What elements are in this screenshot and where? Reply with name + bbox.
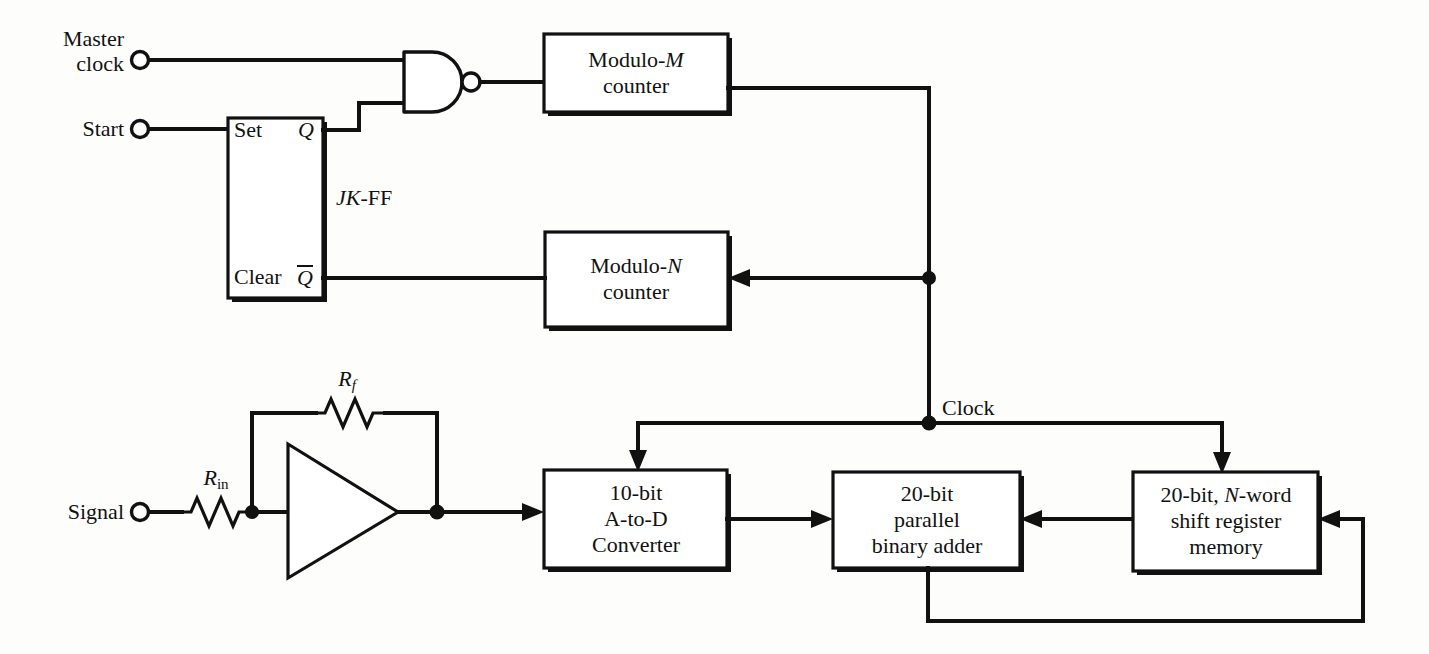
label-modulo-m-line2: counter xyxy=(603,73,669,98)
label-jkff-set-pin: Set xyxy=(234,118,262,143)
block-diagram-figure: Masterclock Start Signal Set Clear Q Q J… xyxy=(0,0,1429,654)
arrow-into-adder-from-adc xyxy=(811,510,833,528)
label-modulo-m-counter: Modulo-Mcounter xyxy=(588,47,683,99)
label-adc-line2: A-to-D xyxy=(604,506,668,531)
nand-bubble-icon xyxy=(462,73,480,91)
wire-modulo-m-to-clock-trunk xyxy=(728,88,929,423)
label-jkff-name: JK-FF xyxy=(336,186,392,211)
label-jkff-name-plain: -FF xyxy=(360,185,392,210)
label-modulo-n-prefix: Modulo- xyxy=(590,253,667,278)
label-jkff-name-italic: JK xyxy=(336,185,360,210)
label-jkff-qbar-pin: Q xyxy=(297,265,313,291)
label-modulo-n-line2: counter xyxy=(603,279,669,304)
label-modulo-n-italic: N xyxy=(667,253,682,278)
label-shift-register-italic: N xyxy=(1224,482,1239,507)
resistor-rin-symbol xyxy=(182,498,252,526)
label-rf-subscript: f xyxy=(352,377,356,393)
signal-terminal[interactable] xyxy=(132,504,149,521)
label-shift-register: 20-bit, N-wordshift registermemory xyxy=(1161,482,1292,560)
wire-q-to-nand xyxy=(323,103,404,130)
start-terminal[interactable] xyxy=(132,121,149,138)
label-signal: Signal xyxy=(68,500,124,525)
label-shift-register-line2: shift register xyxy=(1171,508,1282,533)
label-adder-line2: parallel xyxy=(894,507,960,532)
label-jkff-qbar-glyph: Q xyxy=(297,265,313,289)
label-rf-base: R xyxy=(338,366,351,391)
nand-gate xyxy=(404,52,462,112)
label-resistor-rf: Rf xyxy=(338,367,356,394)
resistor-rf-symbol xyxy=(316,399,385,427)
label-master-clock: Masterclock xyxy=(63,27,124,76)
label-jkff-clear-pin: Clear xyxy=(234,265,282,290)
wire-feedback-right-leg xyxy=(385,413,437,512)
label-adc-line3: Converter xyxy=(592,532,680,557)
label-clock: Clock xyxy=(942,396,995,421)
label-resistor-rin: Rin xyxy=(203,466,228,493)
label-jkff-q-glyph: Q xyxy=(298,117,314,142)
junction-dot-clock-bus xyxy=(922,416,937,431)
label-adder: 20-bitparallelbinary adder xyxy=(872,481,983,559)
label-modulo-n-counter: Modulo-Ncounter xyxy=(590,253,682,305)
label-start: Start xyxy=(82,117,124,142)
label-adder-line3: binary adder xyxy=(872,533,983,558)
arrow-into-adc-signal xyxy=(522,503,544,521)
label-modulo-m-italic: M xyxy=(665,47,683,72)
label-jkff-q-pin: Q xyxy=(298,118,314,143)
label-rin-base: R xyxy=(203,465,216,490)
label-master-clock-line2: clock xyxy=(76,51,124,76)
master-clock-terminal[interactable] xyxy=(132,52,149,69)
label-shift-register-prefix: 20-bit, xyxy=(1161,482,1225,507)
label-rin-subscript: in xyxy=(217,476,229,492)
label-master-clock-line1: Master xyxy=(63,26,124,51)
label-modulo-m-prefix: Modulo- xyxy=(588,47,665,72)
label-adder-line1: 20-bit xyxy=(901,481,954,506)
label-shift-register-line3: memory xyxy=(1189,534,1262,559)
label-adc-line1: 10-bit xyxy=(610,480,663,505)
op-amp-symbol xyxy=(288,444,398,578)
label-shift-register-suffix: -word xyxy=(1239,482,1292,507)
label-adc: 10-bitA-to-DConverter xyxy=(592,480,680,558)
